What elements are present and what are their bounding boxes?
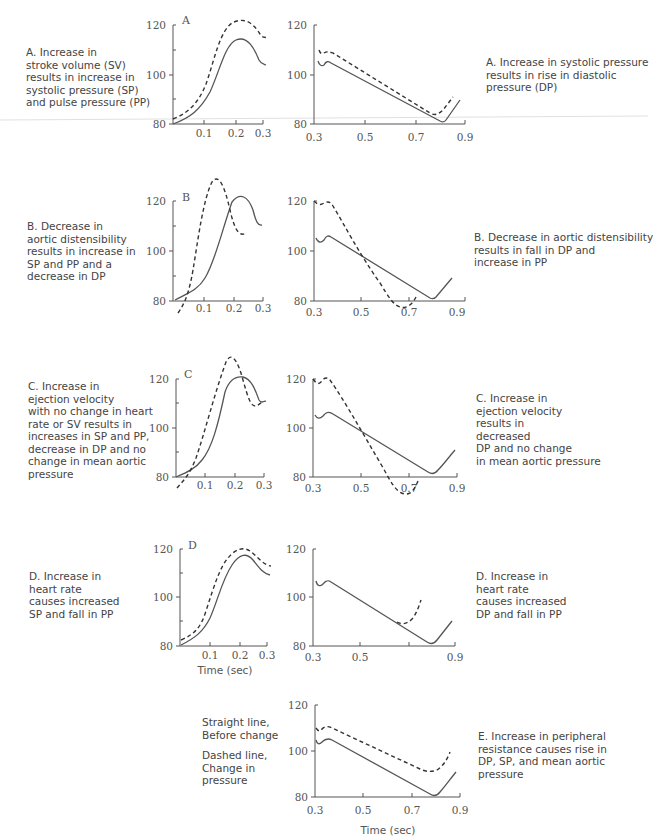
y-tick-label: 120 <box>286 543 306 555</box>
panel-label: A <box>181 14 191 27</box>
y-tick-label: 80 <box>153 295 166 307</box>
y-tick-label: 120 <box>288 699 308 711</box>
chart-A-systole: 120 100 80 0.1 0.2 0.3 A <box>146 14 271 139</box>
x-tick-label: 0.3 <box>255 127 272 139</box>
x-tick-label: 0.3 <box>256 479 273 491</box>
y-tick-label: 80 <box>294 118 307 130</box>
x-tick-label: 0.3 <box>259 649 276 661</box>
dashed-curve <box>181 549 271 640</box>
dashed-curve <box>397 600 421 624</box>
x-axis-title: Time (sec) <box>197 664 253 676</box>
solid-curve <box>176 377 266 477</box>
y-tick-label: 100 <box>153 591 173 603</box>
x-tick-label: 0.3 <box>306 306 323 318</box>
x-tick-label: 0.5 <box>357 131 374 143</box>
y-tick-label: 80 <box>156 471 169 483</box>
x-tick-label: 0.5 <box>352 651 369 663</box>
y-tick-label: 120 <box>149 373 169 385</box>
x-tick-label: 0.1 <box>202 649 219 661</box>
x-tick-label: 0.7 <box>408 131 425 143</box>
x-tick-label: 0.9 <box>452 804 469 816</box>
chart-B-diastole: 120 100 80 0.3 0.5 0.7 0.9 <box>287 195 465 318</box>
x-tick-label: 0.3 <box>305 482 322 494</box>
y-tick-label: 120 <box>287 195 307 207</box>
x-tick-label: 0.5 <box>355 804 372 816</box>
x-tick-label: 0.1 <box>196 302 213 314</box>
axis <box>315 705 460 797</box>
x-tick-label: 0.5 <box>353 482 370 494</box>
dashed-curve <box>316 727 450 772</box>
y-tick-label: 120 <box>153 543 173 555</box>
x-tick-label: 0.2 <box>228 127 245 139</box>
chart-D-diastole: 120 100 80 0.3 0.5 0.9 <box>286 543 463 663</box>
axis <box>313 379 457 477</box>
x-tick-label: 0.2 <box>232 649 249 661</box>
x-tick-label: 0.3 <box>305 651 322 663</box>
y-tick-label: 100 <box>286 422 306 434</box>
solid-curve <box>318 61 460 122</box>
scan-artifact <box>0 116 648 120</box>
x-tick-label: 0.1 <box>197 479 214 491</box>
x-tick-label: 0.7 <box>404 804 421 816</box>
x-tick-label: 0.1 <box>196 127 213 139</box>
y-tick-label: 120 <box>287 19 307 31</box>
x-tick-label: 0.5 <box>353 306 370 318</box>
solid-curve <box>315 412 455 473</box>
y-tick-label: 100 <box>146 245 166 257</box>
x-tick-label: 0.9 <box>449 306 466 318</box>
y-tick-label: 100 <box>149 422 169 434</box>
axis <box>180 549 267 646</box>
dashed-curve <box>173 20 269 119</box>
dashed-curve <box>314 201 416 308</box>
axis <box>176 379 264 477</box>
panel-label: C <box>184 368 192 381</box>
chart-E-diastole: 120 100 80 0.3 0.5 0.7 0.9 Time (sec) <box>288 699 468 836</box>
y-tick-label: 120 <box>146 195 166 207</box>
y-tick-label: 100 <box>287 245 307 257</box>
chart-C-diastole: 120 100 80 0.3 0.5 0.7 0.9 <box>286 373 465 494</box>
chart-D-systole: 120 100 80 0.1 0.2 0.3 Time (sec) D <box>153 539 275 676</box>
y-tick-label: 100 <box>288 745 308 757</box>
dashed-curve <box>319 50 453 114</box>
solid-curve <box>316 739 456 795</box>
y-tick-label: 80 <box>160 640 173 652</box>
x-tick-label: 0.2 <box>227 479 244 491</box>
y-tick-label: 80 <box>295 791 308 803</box>
panel-label: B <box>182 191 190 204</box>
axis <box>314 201 465 301</box>
axis <box>313 549 455 646</box>
x-tick-label: 0.3 <box>307 804 324 816</box>
y-tick-label: 100 <box>287 69 307 81</box>
solid-curve <box>175 196 262 300</box>
axis <box>173 201 263 301</box>
y-tick-label: 120 <box>146 19 166 31</box>
x-tick-label: 0.9 <box>457 131 474 143</box>
chart-B-systole: 120 100 80 0.1 0.2 0.3 B <box>146 179 271 314</box>
solid-curve <box>316 581 452 644</box>
chart-A-diastole: 120 100 80 0.3 0.5 0.7 0.9 <box>287 19 473 143</box>
chart-C-systole: 120 100 80 0.1 0.2 0.3 C <box>149 357 272 491</box>
x-tick-label: 0.9 <box>447 651 464 663</box>
y-tick-label: 80 <box>153 118 166 130</box>
y-tick-label: 120 <box>286 373 306 385</box>
y-tick-label: 100 <box>146 69 166 81</box>
x-axis-title: Time (sec) <box>360 824 416 836</box>
x-tick-label: 0.3 <box>255 302 272 314</box>
y-tick-label: 100 <box>286 591 306 603</box>
axis <box>173 25 263 124</box>
x-tick-label: 0.9 <box>449 482 466 494</box>
axis <box>314 25 465 124</box>
panel-label: D <box>188 539 197 552</box>
x-tick-label: 0.2 <box>226 302 243 314</box>
x-tick-label: 0.3 <box>306 131 323 143</box>
